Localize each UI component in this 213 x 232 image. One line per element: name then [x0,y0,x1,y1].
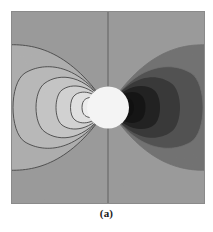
contour-plot [11,11,205,204]
figure-panel: (a) [0,0,213,232]
contour-layers [11,11,205,204]
figure-caption: (a) [0,207,213,219]
contour-plot-svg [11,11,205,204]
grain-overlay [11,11,205,204]
